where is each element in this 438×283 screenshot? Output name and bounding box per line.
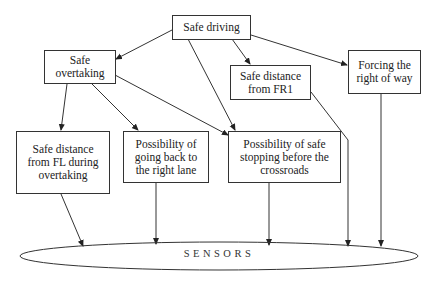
edge-safe-overtaking-to-safe-distance-fl bbox=[61, 84, 67, 130]
node-safe-stopping: Possibility of safe stopping before the … bbox=[228, 131, 341, 183]
node-label: Forcing the right of way bbox=[355, 59, 414, 85]
sensors-label: SENSORS bbox=[0, 248, 438, 259]
node-label: Safe overtaking bbox=[55, 54, 105, 80]
node-label: Possibility of going back to the right l… bbox=[130, 138, 202, 177]
edge-safe-distance-fl-to-sensors bbox=[61, 194, 83, 246]
node-label: Possibility of safe stopping before the … bbox=[233, 138, 336, 177]
node-safe-driving: Safe driving bbox=[172, 15, 251, 40]
node-label: Safe distance from FR1 bbox=[239, 70, 302, 96]
edge-safe-driving-to-forcing-right-of-way bbox=[251, 35, 347, 65]
node-safe-distance-fl: Safe distance from FL during overtaking bbox=[16, 131, 110, 194]
edge-safe-driving-to-safe-stopping bbox=[188, 39, 235, 130]
node-safe-overtaking: Safe overtaking bbox=[44, 50, 116, 84]
node-label: Safe driving bbox=[183, 21, 240, 34]
node-safe-distance-fr1: Safe distance from FR1 bbox=[230, 65, 311, 100]
edge-safe-driving-to-safe-overtaking bbox=[116, 30, 172, 59]
node-going-back-right-lane: Possibility of going back to the right l… bbox=[123, 131, 209, 183]
node-label: Safe distance from FL during overtaking bbox=[23, 143, 103, 182]
node-forcing-right-of-way: Forcing the right of way bbox=[348, 50, 421, 94]
edge-safe-overtaking-to-going-back-right-lane bbox=[92, 84, 138, 130]
edge-safe-driving-to-safe-distance-fr1 bbox=[232, 39, 250, 64]
